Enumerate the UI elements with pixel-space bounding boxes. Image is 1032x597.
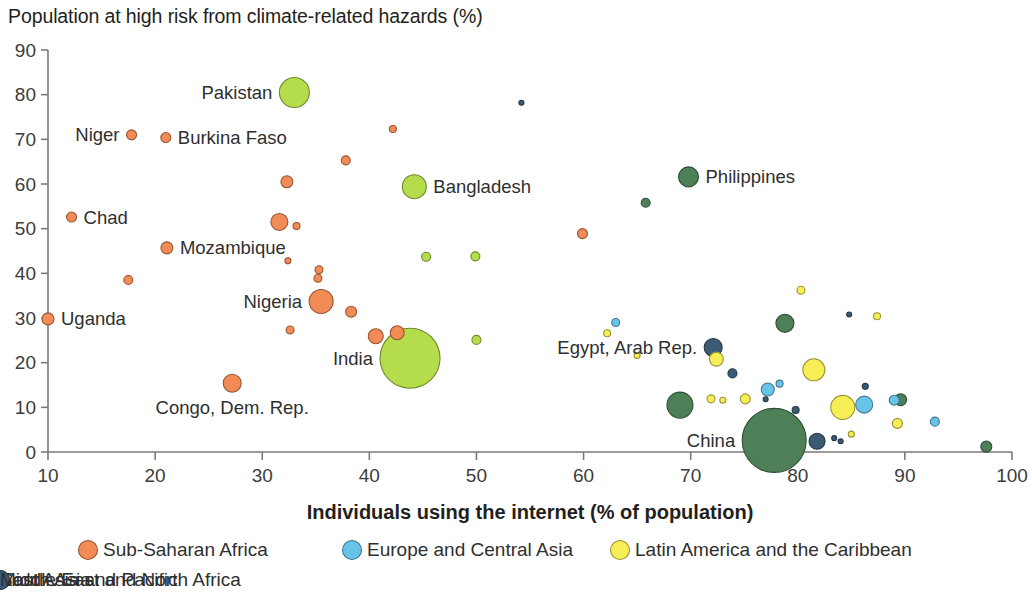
bubble-point[interactable] (271, 213, 288, 230)
bubble-chart-figure: Population at high risk from climate-rel… (0, 0, 1032, 597)
bubble-point[interactable] (763, 397, 768, 402)
x-tick-label: 20 (145, 465, 166, 486)
bubble-point[interactable] (422, 252, 431, 261)
point-label-mozambique: Mozambique (180, 237, 286, 258)
legend-item-europe-and-central-asia[interactable]: Europe and Central Asia (343, 539, 574, 560)
bubble-point[interactable] (667, 392, 693, 418)
bubble-china[interactable] (742, 408, 806, 472)
point-label-philippines: Philippines (706, 166, 795, 187)
point-label-nigeria: Nigeria (243, 291, 302, 312)
bubble-point[interactable] (792, 407, 799, 414)
x-tick-label: 40 (359, 465, 380, 486)
chart-legend: Sub-Saharan AfricaEurope and Central Asi… (0, 539, 912, 590)
point-label-uganda: Uganda (61, 308, 127, 329)
x-tick-label: 100 (996, 465, 1028, 486)
x-tick-label: 30 (252, 465, 273, 486)
bubble-point[interactable] (577, 229, 587, 239)
bubble-point[interactable] (803, 359, 825, 381)
bubble-point[interactable] (293, 222, 300, 229)
point-label-bangladesh: Bangladesh (433, 176, 531, 197)
bubble-point[interactable] (124, 276, 133, 285)
bubble-nigeria[interactable] (309, 289, 333, 313)
bubble-bangladesh[interactable] (402, 175, 426, 199)
bubble-point[interactable] (709, 352, 723, 366)
bubble-point[interactable] (874, 313, 881, 320)
bubble-point[interactable] (889, 395, 899, 405)
bubble-point[interactable] (862, 383, 868, 389)
point-label-congo-dem-rep: Congo, Dem. Rep. (156, 397, 309, 418)
bubble-uganda[interactable] (42, 313, 54, 325)
legend-swatch-icon (79, 541, 98, 560)
x-tick-label: 70 (680, 465, 701, 486)
legend-item-latin-america-and-the-caribbean[interactable]: Latin America and the Caribbean (611, 539, 912, 560)
bubble-congo-dem-rep[interactable] (223, 374, 241, 392)
bubble-point[interactable] (776, 380, 783, 387)
y-tick-label: 20 (15, 352, 36, 373)
bubble-point[interactable] (341, 156, 350, 165)
bubble-point[interactable] (707, 395, 715, 403)
bubble-point[interactable] (809, 433, 825, 449)
bubble-pakistan[interactable] (279, 77, 309, 107)
bubble-point[interactable] (389, 126, 396, 133)
point-label-burkina-faso: Burkina Faso (178, 127, 287, 148)
bubble-point[interactable] (838, 439, 843, 444)
bubble-point[interactable] (286, 326, 294, 334)
y-tick-label: 30 (15, 308, 36, 329)
bubble-mozambique[interactable] (161, 242, 173, 254)
bubble-point[interactable] (892, 418, 902, 428)
bubble-point[interactable] (847, 312, 852, 317)
y-tick-label: 70 (15, 129, 36, 150)
bubble-point[interactable] (832, 436, 837, 441)
point-label-egypt-arab-rep: Egypt, Arab Rep. (557, 337, 697, 358)
legend-item-sub-saharan-africa[interactable]: Sub-Saharan Africa (79, 539, 269, 560)
plot-area: 0102030405060708090102030405060708090100… (0, 0, 1032, 597)
point-label-india: India (333, 348, 374, 369)
bubble-point[interactable] (761, 383, 774, 396)
bubble-point[interactable] (346, 306, 357, 317)
point-label-china: China (687, 430, 736, 451)
bubble-point[interactable] (776, 314, 794, 332)
bubble-point[interactable] (281, 176, 293, 188)
legend-label: Europe and Central Asia (367, 539, 573, 560)
axis-titles-layer: Individuals using the internet (% of pop… (307, 501, 754, 523)
x-tick-label: 10 (37, 465, 58, 486)
point-label-niger: Niger (75, 124, 119, 145)
chart-title: Population at high risk from climate-rel… (8, 5, 483, 28)
bubble-philippines[interactable] (679, 167, 699, 187)
y-tick-label: 90 (15, 40, 36, 61)
bubble-point[interactable] (740, 394, 750, 404)
bubble-point[interactable] (285, 258, 291, 264)
bubble-chad[interactable] (67, 212, 77, 222)
bubble-point[interactable] (315, 266, 323, 274)
bubble-point[interactable] (314, 274, 322, 282)
bubble-point[interactable] (930, 417, 939, 426)
bubble-point[interactable] (720, 397, 726, 403)
legend-swatch-icon (343, 541, 362, 560)
legend-label: Sub-Saharan Africa (103, 539, 268, 560)
bubble-point[interactable] (797, 286, 805, 294)
bubble-point[interactable] (472, 335, 481, 344)
x-tick-label: 60 (573, 465, 594, 486)
bubble-point[interactable] (471, 252, 480, 261)
bubble-point[interactable] (612, 318, 620, 326)
y-tick-label: 80 (15, 84, 36, 105)
bubble-point[interactable] (519, 100, 524, 105)
bubble-point[interactable] (831, 395, 855, 419)
x-tick-label: 90 (894, 465, 915, 486)
bubble-niger[interactable] (127, 130, 137, 140)
x-axis-title: Individuals using the internet (% of pop… (307, 501, 754, 523)
bubble-point[interactable] (390, 326, 404, 340)
bubble-point[interactable] (856, 396, 873, 413)
bubble-point[interactable] (368, 329, 383, 344)
bubble-point[interactable] (641, 198, 650, 207)
bubble-point[interactable] (728, 369, 737, 378)
bubble-point[interactable] (981, 441, 992, 452)
x-tick-label: 50 (466, 465, 487, 486)
legend-item-middle-east-and-north-africa[interactable]: Middle East and North Africa (0, 569, 241, 590)
bubble-burkina-faso[interactable] (161, 133, 171, 143)
bubble-point[interactable] (604, 330, 611, 337)
point-label-pakistan: Pakistan (201, 82, 272, 103)
bubble-india[interactable] (380, 328, 440, 388)
legend-swatch-icon (611, 541, 630, 560)
bubble-point[interactable] (848, 431, 854, 437)
